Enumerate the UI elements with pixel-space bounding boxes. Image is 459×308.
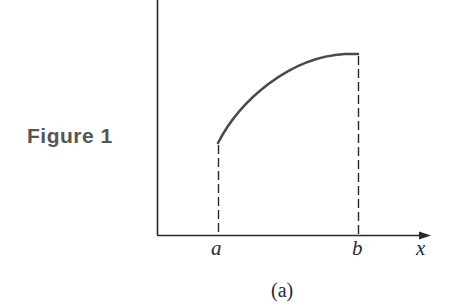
tick-label-b: b (352, 236, 363, 261)
x-axis-label: x (416, 236, 425, 261)
function-curve (218, 54, 358, 143)
plot-area (0, 0, 459, 308)
figure-caption: (a) (271, 279, 293, 302)
tick-label-a: a (211, 236, 222, 261)
